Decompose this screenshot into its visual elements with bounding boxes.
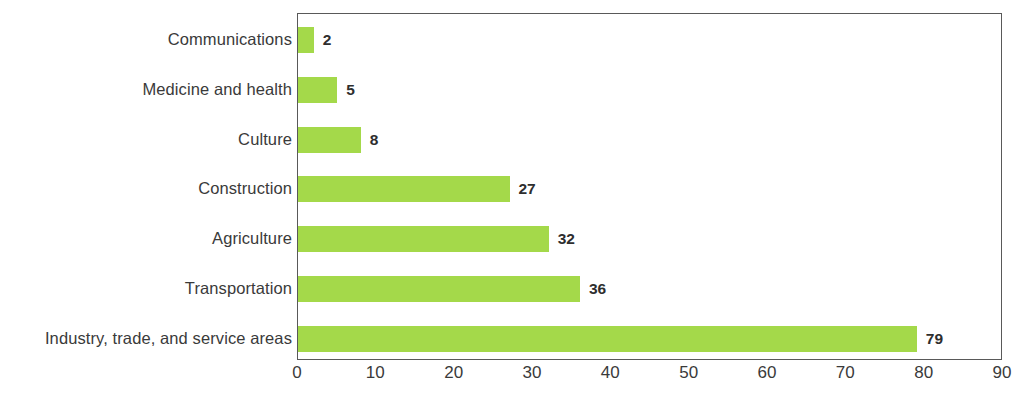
x-tick-label: 20 <box>444 364 463 381</box>
bar-row: 2 <box>298 27 1003 53</box>
bar-row: 36 <box>298 276 1003 302</box>
bar-value-label: 2 <box>323 32 332 48</box>
category-label: Medicine and health <box>0 81 292 98</box>
bar-value-label: 8 <box>370 132 379 148</box>
bar-value-label: 5 <box>346 82 355 98</box>
category-label: Industry, trade, and service areas <box>0 330 292 347</box>
bar <box>298 127 361 153</box>
bar-row: 32 <box>298 226 1003 252</box>
bar <box>298 226 549 252</box>
bar-value-label: 36 <box>589 281 606 297</box>
bar-chart: CommunicationsMedicine and healthCulture… <box>0 0 1016 396</box>
x-tick-label: 50 <box>679 364 698 381</box>
x-tick-label: 30 <box>523 364 542 381</box>
bar <box>298 276 580 302</box>
bar <box>298 27 314 53</box>
x-tick-label: 70 <box>836 364 855 381</box>
bar <box>298 176 510 202</box>
bar-row: 8 <box>298 127 1003 153</box>
bar-row: 27 <box>298 176 1003 202</box>
x-tick-label: 0 <box>292 364 301 381</box>
category-axis-labels: CommunicationsMedicine and healthCulture… <box>0 13 292 360</box>
x-tick-label: 40 <box>601 364 620 381</box>
plot-area: 25827323679 <box>298 14 1001 359</box>
category-label: Culture <box>0 131 292 148</box>
x-tick-label: 60 <box>758 364 777 381</box>
bar <box>298 77 337 103</box>
bar <box>298 326 917 352</box>
bar-value-label: 79 <box>926 331 943 347</box>
category-label: Construction <box>0 180 292 197</box>
x-axis-tick-labels: 0102030405060708090 <box>297 364 1002 394</box>
bar-row: 79 <box>298 326 1003 352</box>
plot-frame: 25827323679 <box>297 13 1002 360</box>
bar-value-label: 32 <box>558 231 575 247</box>
x-tick-label: 90 <box>993 364 1012 381</box>
bar-value-label: 27 <box>519 182 536 198</box>
category-label: Transportation <box>0 280 292 297</box>
x-tick-label: 80 <box>914 364 933 381</box>
x-tick-label: 10 <box>366 364 385 381</box>
category-label: Communications <box>0 31 292 48</box>
bar-row: 5 <box>298 77 1003 103</box>
category-label: Agriculture <box>0 230 292 247</box>
